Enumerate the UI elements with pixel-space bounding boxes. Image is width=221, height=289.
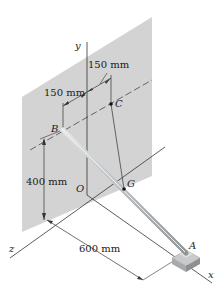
dimension-bc-right: 150 mm xyxy=(88,59,130,70)
origin-label: O xyxy=(76,183,84,194)
x-axis xyxy=(87,195,212,283)
point-a-label: A xyxy=(188,240,196,251)
x-axis-label: x xyxy=(208,269,214,280)
dimension-a-distance: 600 mm xyxy=(79,243,121,254)
point-c xyxy=(109,102,113,106)
rod-wall-diagram: y 150 mm 150 mm C B 400 mm O G z 600 mm … xyxy=(0,0,221,289)
point-b-label: B xyxy=(50,123,58,134)
y-axis-label: y xyxy=(74,40,81,51)
dimension-b-height: 400 mm xyxy=(26,176,68,187)
point-g xyxy=(122,187,126,191)
z-axis-label: z xyxy=(8,243,15,254)
point-g-label: G xyxy=(127,178,135,189)
point-c-label: C xyxy=(115,98,123,109)
dimension-bc-left: 150 mm xyxy=(44,87,86,98)
